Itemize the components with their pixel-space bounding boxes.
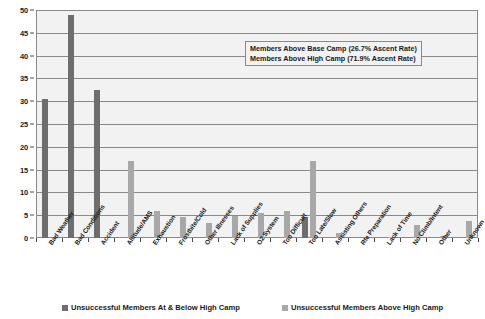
y-tick-mark <box>30 146 34 147</box>
bar-group <box>140 10 166 238</box>
y-tick-label: 45 <box>20 28 28 37</box>
bar-group <box>114 10 140 238</box>
bar-group <box>36 10 62 238</box>
y-axis: 05101520253035404550 <box>0 10 34 238</box>
y-tick-label: 50 <box>20 6 28 15</box>
legend-label: Unsuccessful Members At & Below High Cam… <box>71 303 240 312</box>
bar <box>42 99 48 238</box>
bar-group <box>452 10 478 238</box>
bar-group <box>62 10 88 238</box>
y-tick-mark <box>30 124 34 125</box>
annotation-line-base-camp: Members Above Base Camp (26.7% Ascent Ra… <box>250 44 417 54</box>
y-tick-mark <box>30 192 34 193</box>
bar <box>128 161 134 238</box>
y-tick-mark <box>30 169 34 170</box>
bar <box>68 15 74 238</box>
bar-group <box>166 10 192 238</box>
legend-item-at-below-high-camp: Unsuccessful Members At & Below High Cam… <box>62 303 240 312</box>
y-tick-label: 15 <box>20 165 28 174</box>
y-tick-label: 40 <box>20 51 28 60</box>
y-tick-label: 30 <box>20 97 28 106</box>
y-tick-mark <box>30 238 34 239</box>
legend-label: Unsuccessful Members Above High Camp <box>291 303 443 312</box>
y-tick-mark <box>30 55 34 56</box>
legend-swatch-icon <box>62 305 68 311</box>
y-tick-mark <box>30 78 34 79</box>
y-tick-mark <box>30 32 34 33</box>
bar-group <box>218 10 244 238</box>
x-axis-labels: Bad WeatherBad ConditionsAccidentAltitud… <box>0 242 484 300</box>
y-tick-mark <box>30 215 34 216</box>
y-tick-label: 10 <box>20 188 28 197</box>
y-tick-mark <box>30 101 34 102</box>
chart-legend: Unsuccessful Members At & Below High Cam… <box>0 303 484 317</box>
y-tick-label: 5 <box>24 211 28 220</box>
annotation-box: Members Above Base Camp (26.7% Ascent Ra… <box>245 41 422 66</box>
y-tick-label: 20 <box>20 142 28 151</box>
bar <box>310 161 316 238</box>
legend-item-above-high-camp: Unsuccessful Members Above High Camp <box>282 303 443 312</box>
annotation-line-high-camp: Members Above High Camp (71.9% Ascent Ra… <box>250 54 417 64</box>
bar-group <box>192 10 218 238</box>
y-tick-label: 25 <box>20 120 28 129</box>
y-tick-mark <box>30 10 34 11</box>
legend-swatch-icon <box>282 305 288 311</box>
y-tick-label: 35 <box>20 74 28 83</box>
